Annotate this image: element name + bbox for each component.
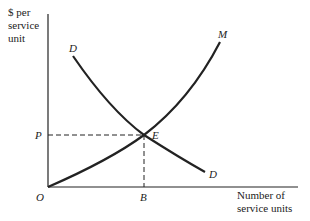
y-axis-label-line: $ per: [8, 6, 52, 19]
y-axis-label-line: service: [8, 19, 52, 32]
x-axis-label-line: Number of: [237, 189, 310, 202]
y-axis-label-line: unit: [8, 32, 52, 45]
origin-label: O: [36, 191, 44, 204]
quantity-label: B: [140, 191, 147, 204]
demand-curve: [73, 56, 205, 172]
x-axis-label-line: service units: [237, 202, 310, 215]
y-axis-label: $ per service unit: [8, 6, 52, 45]
price-label: P: [35, 129, 42, 142]
equilibrium-label: E: [152, 129, 159, 142]
demand-label-end: D: [209, 168, 217, 181]
m-curve-label: M: [218, 28, 227, 41]
x-axis-label: Number of service units: [237, 189, 310, 215]
demand-label-start: D: [69, 42, 77, 55]
